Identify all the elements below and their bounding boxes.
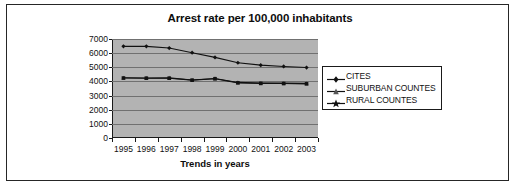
legend-marker-cites <box>326 71 346 82</box>
data-point-marker <box>213 55 217 59</box>
data-point-marker <box>304 65 308 69</box>
x-axis-tick-mark <box>135 138 136 142</box>
y-axis-tick-label: 0 <box>103 133 108 143</box>
x-axis-tick-mark <box>112 138 113 142</box>
data-point-marker <box>122 76 126 80</box>
data-point-marker <box>167 76 171 80</box>
legend-label: CITES <box>346 71 371 81</box>
y-axis-tick-label: 2000 <box>89 105 108 115</box>
chart-title: Arrest rate per 100,000 inhabitants <box>0 12 520 24</box>
y-axis-tick-label: 7000 <box>89 34 108 44</box>
x-axis-tick-mark <box>204 138 205 142</box>
data-point-marker <box>167 46 171 50</box>
data-point-marker <box>145 76 149 80</box>
legend-label: SUBURBAN COUNTES <box>346 83 436 93</box>
y-axis-tick-label: 1000 <box>89 119 108 129</box>
x-axis-tick-label: 1999 <box>206 144 225 154</box>
legend-item[interactable]: SUBURBAN COUNTES <box>326 82 436 94</box>
legend-item[interactable]: CITES <box>326 70 436 82</box>
data-point-marker <box>190 78 194 82</box>
data-point-marker <box>282 64 286 68</box>
x-axis-title: Trends in years <box>112 158 318 169</box>
legend-item[interactable]: RURAL COUNTES <box>326 94 436 106</box>
x-axis-tick-label: 2000 <box>228 144 247 154</box>
legend-label: RURAL COUNTES <box>346 95 417 105</box>
x-axis-tick-label: 1995 <box>114 144 133 154</box>
y-axis-tick-label: 3000 <box>89 91 108 101</box>
data-point-marker <box>259 82 263 86</box>
x-axis-tick-mark <box>249 138 250 142</box>
x-axis-tick-mark <box>272 138 273 142</box>
x-axis-tick-mark <box>226 138 227 142</box>
data-point-marker <box>190 51 194 55</box>
x-axis-tick-mark <box>295 138 296 142</box>
data-point-marker <box>236 81 240 85</box>
x-axis-tick-label: 2001 <box>251 144 270 154</box>
x-axis-tick-mark <box>181 138 182 142</box>
plot-region: 70006000500040003000200010000 1995199619… <box>112 39 318 138</box>
x-axis-tick-mark <box>318 138 319 142</box>
data-point-marker <box>236 61 240 65</box>
x-axis-tick-label: 1998 <box>183 144 202 154</box>
legend-marker-suburban-counties <box>326 83 346 94</box>
data-point-marker <box>144 44 148 48</box>
data-point-marker <box>213 77 217 81</box>
series-layer <box>112 39 318 138</box>
legend: CITES SUBURBAN COUNTES RURAL COUNTES <box>322 66 442 110</box>
legend-marker-rural-counties <box>326 95 346 106</box>
x-axis-tick-label: 1996 <box>137 144 156 154</box>
chart-screenshot: Arrest rate per 100,000 inhabitants 7000… <box>0 0 520 188</box>
y-axis-tick-label: 6000 <box>89 48 108 58</box>
data-point-marker <box>121 44 125 48</box>
y-axis-tick-label: 5000 <box>89 62 108 72</box>
x-axis-tick-label: 2002 <box>274 144 293 154</box>
x-axis-tick-label: 2003 <box>297 144 316 154</box>
x-axis-tick-mark <box>158 138 159 142</box>
data-point-marker <box>259 63 263 67</box>
data-point-marker <box>282 82 286 86</box>
data-point-marker <box>305 82 309 86</box>
x-axis-tick-label: 1997 <box>160 144 179 154</box>
y-axis-tick-label: 4000 <box>89 76 108 86</box>
